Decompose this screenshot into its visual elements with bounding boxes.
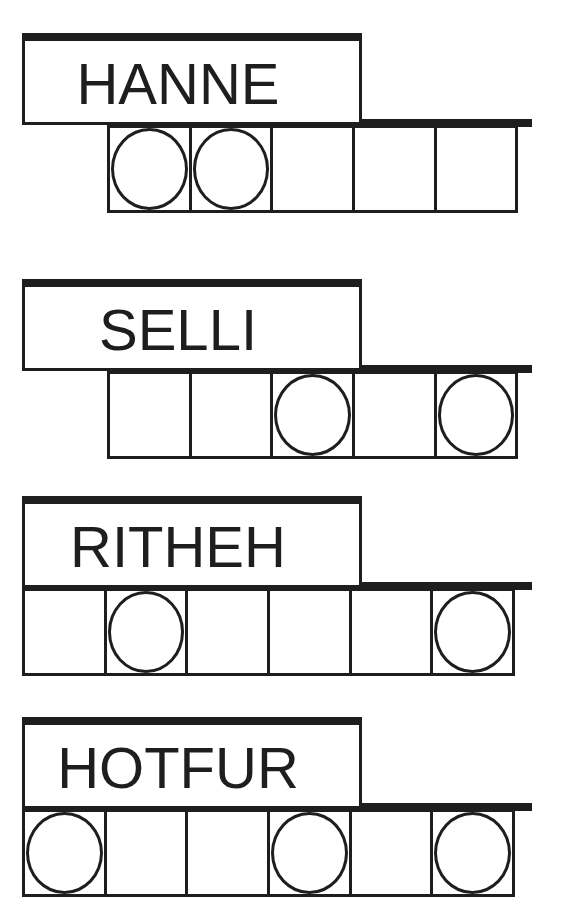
circle-marker: [271, 812, 348, 894]
answer-cell-circled[interactable]: [22, 809, 107, 897]
answer-cell[interactable]: [352, 125, 437, 213]
answer-cell[interactable]: [349, 809, 434, 897]
answer-cell[interactable]: [270, 125, 355, 213]
scrambled-word: HANNE: [25, 55, 331, 113]
circle-marker: [438, 374, 515, 456]
scrambled-word: RITHEH: [25, 518, 331, 576]
answer-cell-circled[interactable]: [430, 809, 515, 897]
answer-cell-circled[interactable]: [107, 125, 192, 213]
answer-cell-circled[interactable]: [267, 809, 352, 897]
answer-cells: [22, 588, 515, 676]
circle-marker: [108, 591, 185, 673]
answer-cell[interactable]: [434, 125, 519, 213]
circle-marker: [434, 812, 511, 894]
answer-cell-circled[interactable]: [270, 371, 355, 459]
answer-cell[interactable]: [104, 809, 189, 897]
circle-marker: [26, 812, 103, 894]
answer-cell-circled[interactable]: [434, 371, 519, 459]
answer-cell[interactable]: [352, 371, 437, 459]
answer-cell[interactable]: [185, 588, 270, 676]
scrambled-word-box: RITHEH: [22, 496, 362, 588]
circle-marker: [274, 374, 351, 456]
answer-cell[interactable]: [22, 588, 107, 676]
answer-cells: [107, 125, 518, 213]
scrambled-word-box: HOTFUR: [22, 717, 362, 809]
answer-cell-circled[interactable]: [430, 588, 515, 676]
scrambled-word: SELLI: [25, 301, 331, 359]
answer-cell-circled[interactable]: [104, 588, 189, 676]
answer-cell[interactable]: [349, 588, 434, 676]
circle-marker: [193, 128, 270, 210]
answer-cell[interactable]: [185, 809, 270, 897]
answer-cell[interactable]: [107, 371, 192, 459]
circle-marker: [111, 128, 188, 210]
scrambled-word-box: SELLI: [22, 279, 362, 371]
circle-marker: [434, 591, 511, 673]
answer-cell[interactable]: [267, 588, 352, 676]
answer-cells: [22, 809, 515, 897]
scrambled-word-box: HANNE: [22, 33, 362, 125]
answer-cell[interactable]: [189, 371, 274, 459]
answer-cells: [107, 371, 518, 459]
scrambled-word: HOTFUR: [25, 739, 331, 797]
answer-cell-circled[interactable]: [189, 125, 274, 213]
